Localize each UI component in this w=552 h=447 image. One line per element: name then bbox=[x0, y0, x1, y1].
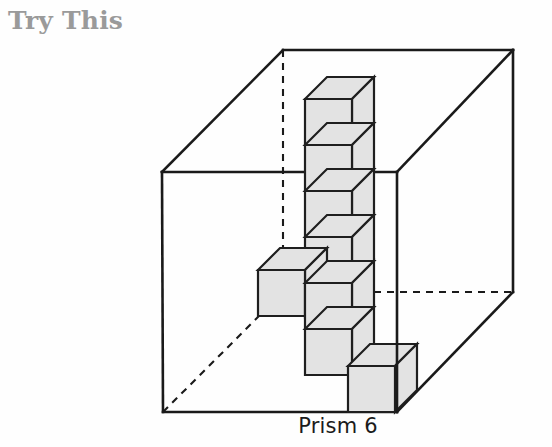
worksheet-page: Try This bbox=[0, 0, 552, 447]
prism-figure bbox=[0, 0, 552, 447]
cube-face-front bbox=[258, 270, 305, 316]
box-edge-top-left-diagonal bbox=[162, 50, 283, 172]
unit-cube-step-right-lower bbox=[348, 344, 417, 412]
box-edge-top-right-diagonal bbox=[397, 50, 513, 172]
unit-cube-stack bbox=[258, 77, 417, 412]
figure-caption: Prism 6 bbox=[0, 414, 552, 438]
figure-caption-text: Prism 6 bbox=[298, 414, 378, 438]
box-edge-front-left-vertical bbox=[162, 172, 163, 412]
cube-face-front bbox=[305, 329, 352, 375]
cube-face-front bbox=[348, 366, 395, 412]
